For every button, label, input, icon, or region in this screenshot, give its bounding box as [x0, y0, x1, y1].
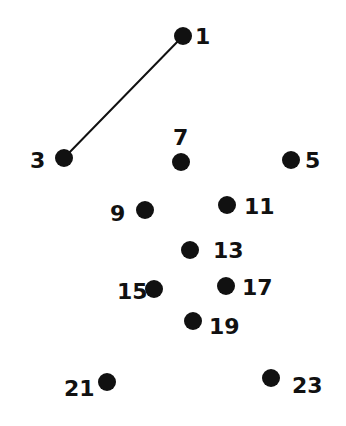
- dot-19[interactable]: 19: [184, 312, 240, 339]
- dot-number-label: 15: [117, 279, 148, 304]
- dot-marker[interactable]: [145, 280, 163, 298]
- dot-23[interactable]: 23: [262, 369, 323, 398]
- connecting-lines: [64, 36, 183, 158]
- dot-marker[interactable]: [174, 27, 192, 45]
- dot-marker[interactable]: [172, 153, 190, 171]
- dot-17[interactable]: 17: [217, 275, 273, 300]
- dot-number-label: 11: [244, 194, 275, 219]
- dot-number-label: 19: [209, 314, 240, 339]
- dot-9[interactable]: 9: [110, 201, 154, 226]
- dot-number-label: 3: [30, 148, 45, 173]
- dot-marker[interactable]: [98, 373, 116, 391]
- dot-3[interactable]: 3: [30, 148, 73, 173]
- dot-number-label: 9: [110, 201, 125, 226]
- dot-marker[interactable]: [218, 196, 236, 214]
- dot-marker[interactable]: [181, 241, 199, 259]
- line-1-to-3: [64, 36, 183, 158]
- dot-number-label: 7: [173, 125, 188, 150]
- dot-number-label: 13: [213, 238, 244, 263]
- dot-1[interactable]: 1: [174, 24, 210, 49]
- dot-number-label: 17: [242, 275, 273, 300]
- dot-number-label: 5: [305, 148, 320, 173]
- dot-21[interactable]: 21: [64, 373, 116, 401]
- dot-marker[interactable]: [217, 277, 235, 295]
- dot-number-label: 21: [64, 376, 95, 401]
- dot-15[interactable]: 15: [117, 279, 163, 304]
- dot-11[interactable]: 11: [218, 194, 275, 219]
- dot-5[interactable]: 5: [282, 148, 320, 173]
- dot-13[interactable]: 13: [181, 238, 244, 263]
- dot-number-label: 23: [292, 373, 323, 398]
- dot-marker[interactable]: [262, 369, 280, 387]
- dot-number-label: 1: [195, 24, 210, 49]
- dot-to-dot-canvas: 1357911131517192123: [0, 0, 346, 426]
- dot-marker[interactable]: [55, 149, 73, 167]
- dot-marker[interactable]: [282, 151, 300, 169]
- dot-marker[interactable]: [184, 312, 202, 330]
- dots-layer: 1357911131517192123: [30, 24, 323, 401]
- dot-marker[interactable]: [136, 201, 154, 219]
- dot-7[interactable]: 7: [172, 125, 190, 171]
